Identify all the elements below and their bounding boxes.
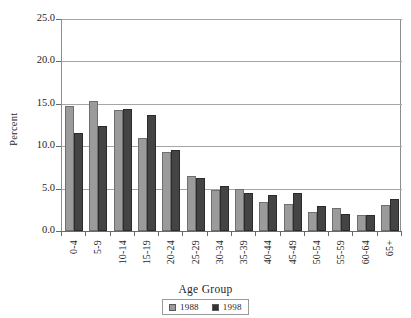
bar-1988-35-39 — [235, 189, 244, 231]
legend-item-1998[interactable]: 1998 — [212, 302, 242, 312]
y-tick-label: 10.0 — [9, 139, 55, 150]
bar-group — [62, 19, 86, 231]
bar-1988-45-49 — [284, 204, 293, 231]
bar-group — [353, 19, 377, 231]
bar-1988-30-34 — [211, 190, 220, 231]
bar-1988-60-64 — [357, 215, 366, 231]
y-tick-mark — [56, 189, 61, 190]
bar-group — [329, 19, 353, 231]
y-tick-label: 0.0 — [9, 224, 55, 235]
bar-1988-20-24 — [162, 152, 171, 231]
bar-group — [183, 19, 207, 231]
y-tick-mark — [56, 61, 61, 62]
y-tick-mark — [56, 19, 61, 20]
bar-1988-15-19 — [138, 138, 147, 231]
bar-1998-55-59 — [341, 214, 350, 231]
bar-group — [135, 19, 159, 231]
bar-1988-50-54 — [308, 212, 317, 231]
bar-group — [232, 19, 256, 231]
bar-1988-0-4 — [65, 106, 74, 232]
bar-1998-45-49 — [293, 193, 302, 231]
x-tick-mark — [255, 231, 256, 236]
x-tick-mark — [110, 231, 111, 236]
y-tick-mark — [56, 104, 61, 105]
bar-1998-40-44 — [268, 195, 277, 231]
bar-1998-60-64 — [366, 215, 375, 231]
x-tick-label-0-4: 0-4 — [68, 240, 79, 254]
bar-1988-65+ — [381, 205, 390, 231]
y-tick-label: 5.0 — [9, 182, 55, 193]
bar-1988-40-44 — [259, 202, 268, 231]
bar-1988-5-9 — [89, 101, 98, 231]
bar-group — [378, 19, 402, 231]
bar-1998-30-34 — [220, 186, 229, 231]
x-tick-mark — [352, 231, 353, 236]
x-tick-label-40-44: 40-44 — [262, 240, 273, 264]
x-tick-mark — [61, 231, 62, 236]
x-tick-label-60-64: 60-64 — [360, 240, 371, 264]
bar-group — [111, 19, 135, 231]
bar-group — [159, 19, 183, 231]
x-tick-mark — [280, 231, 281, 236]
x-tick-label-65+: 65+ — [384, 240, 395, 256]
bar-group — [281, 19, 305, 231]
chart-title-strip — [0, 0, 411, 4]
x-tick-label-35-39: 35-39 — [238, 240, 249, 264]
legend-label: 1998 — [223, 302, 242, 312]
x-tick-label-10-14: 10-14 — [117, 240, 128, 264]
y-tick-label: 20.0 — [9, 54, 55, 65]
x-tick-mark — [401, 231, 402, 236]
bar-1998-10-14 — [123, 109, 132, 231]
series-1-swatch — [169, 304, 176, 311]
bar-1988-25-29 — [187, 176, 196, 231]
chart-legend: 19881998 — [162, 299, 249, 315]
bar-1998-5-9 — [98, 126, 107, 231]
bar-1998-35-39 — [244, 193, 253, 231]
bar-1998-0-4 — [74, 133, 83, 231]
bar-1998-20-24 — [171, 150, 180, 231]
x-tick-mark — [182, 231, 183, 236]
legend-label: 1988 — [180, 302, 199, 312]
x-tick-label-30-34: 30-34 — [214, 240, 225, 264]
x-tick-mark — [231, 231, 232, 236]
x-tick-label-50-54: 50-54 — [311, 240, 322, 264]
y-tick-label: 15.0 — [9, 97, 55, 108]
x-tick-label-55-59: 55-59 — [335, 240, 346, 264]
bar-1998-65+ — [390, 199, 399, 231]
x-tick-mark — [158, 231, 159, 236]
x-tick-label-25-29: 25-29 — [190, 240, 201, 264]
bar-group — [208, 19, 232, 231]
x-tick-mark — [304, 231, 305, 236]
bar-1988-55-59 — [332, 208, 341, 231]
bar-1998-25-29 — [196, 178, 205, 231]
bar-1998-50-54 — [317, 206, 326, 231]
x-tick-mark — [328, 231, 329, 236]
bar-1988-10-14 — [114, 110, 123, 231]
x-axis-title: Age Group — [0, 283, 411, 295]
legend-item-1988[interactable]: 1988 — [169, 302, 199, 312]
y-tick-label: 25.0 — [9, 12, 55, 23]
series-2-swatch — [212, 304, 219, 311]
x-tick-mark — [85, 231, 86, 236]
bar-series-container — [62, 19, 402, 231]
x-tick-label-5-9: 5-9 — [92, 240, 103, 254]
bar-1998-15-19 — [147, 115, 156, 231]
y-tick-mark — [56, 146, 61, 147]
x-tick-mark — [134, 231, 135, 236]
x-tick-label-20-24: 20-24 — [165, 240, 176, 264]
x-tick-label-15-19: 15-19 — [141, 240, 152, 264]
bar-group — [86, 19, 110, 231]
x-tick-label-45-49: 45-49 — [287, 240, 298, 264]
x-tick-mark — [377, 231, 378, 236]
chart-figure: Percent 0.05.010.015.020.025.0 0-45-910-… — [0, 0, 411, 318]
x-tick-mark — [207, 231, 208, 236]
plot-area — [61, 19, 401, 231]
gridline-0 — [62, 231, 402, 232]
bar-group — [305, 19, 329, 231]
bar-group — [256, 19, 280, 231]
